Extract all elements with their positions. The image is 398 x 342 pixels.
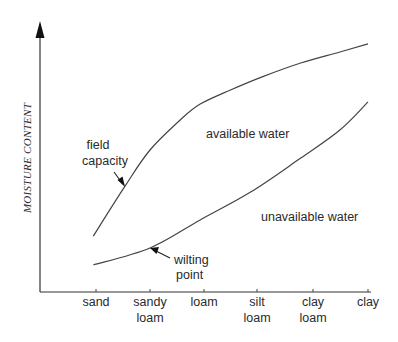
x-tick-label: sandy <box>133 295 167 309</box>
field-capacity-label-line1: field <box>87 138 110 152</box>
x-tick-label: loam <box>136 311 163 325</box>
x-tick-label: clay <box>302 295 325 309</box>
field-capacity-label-line2: capacity <box>82 154 129 168</box>
x-tick-label: silt <box>249 295 265 309</box>
x-tick-labels: sandsandyloamloamsiltloamclayloamclay <box>82 295 379 325</box>
wilting-point-label-line2: point <box>176 268 204 282</box>
available-water-label: available water <box>206 127 289 141</box>
unavailable-water-label: unavailable water <box>261 210 358 224</box>
curves <box>93 44 368 265</box>
x-tick-label: sand <box>82 295 109 309</box>
x-tick-label: loam <box>299 311 326 325</box>
annotations: field capacity wilting point available w… <box>82 127 358 282</box>
wilting-point-label-line1: wilting <box>173 253 209 267</box>
x-tick-label: loam <box>243 311 270 325</box>
x-tick-label: loam <box>190 295 217 309</box>
soil-moisture-diagram: MOISTURE CONTENT sandsandyloamloamsiltlo… <box>0 0 398 342</box>
wilting-point-arrowhead-icon <box>150 247 159 254</box>
y-axis-label: MOISTURE CONTENT <box>21 102 33 214</box>
x-tick-label: clay <box>357 295 380 309</box>
y-axis-arrow-icon <box>36 21 45 38</box>
